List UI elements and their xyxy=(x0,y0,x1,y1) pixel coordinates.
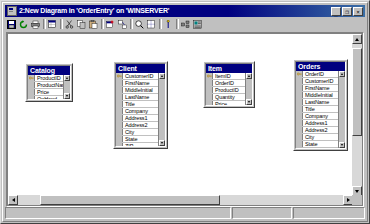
table-row[interactable]: Address2 xyxy=(296,127,338,134)
diagram-table-client[interactable]: ClientCustomerIDFirstNameMiddleInitialLa… xyxy=(113,61,168,149)
row-gutter[interactable] xyxy=(116,115,123,121)
table-row[interactable]: State xyxy=(296,141,338,148)
table-row[interactable]: City xyxy=(116,129,158,136)
scroll-left-button[interactable] xyxy=(8,195,18,205)
table-title[interactable]: Catalog xyxy=(28,66,70,75)
table-row[interactable]: Address1 xyxy=(296,120,338,127)
table-row[interactable]: ZIP xyxy=(116,143,158,146)
scroll-up-button[interactable] xyxy=(352,34,362,44)
table-row[interactable]: LastName xyxy=(116,94,158,101)
table-row[interactable]: Company xyxy=(296,113,338,120)
table-scroll-up-button[interactable] xyxy=(64,75,70,81)
diagram-table-item[interactable]: ItemItemIDOrderIDProductIDQuantityPrice xyxy=(203,61,255,108)
diagram-table-orders[interactable]: OrdersOrderIDCustomerIDFirstNameMiddleIn… xyxy=(293,59,348,151)
row-gutter[interactable] xyxy=(116,101,123,107)
row-gutter[interactable] xyxy=(206,101,213,105)
table-title[interactable]: Item xyxy=(206,64,252,73)
row-gutter[interactable] xyxy=(296,141,303,147)
row-gutter[interactable] xyxy=(296,134,303,140)
diagram-table-catalog[interactable]: CatalogProductIDProductNamePriceOnHand xyxy=(25,63,73,102)
row-gutter[interactable] xyxy=(116,87,123,93)
restore-button[interactable]: ❐ xyxy=(342,7,352,16)
table-vertical-scrollbar[interactable] xyxy=(338,71,345,148)
row-gutter[interactable] xyxy=(116,108,123,114)
table-scroll-down-button[interactable] xyxy=(64,93,70,99)
row-gutter[interactable] xyxy=(206,80,213,86)
refresh-button[interactable] xyxy=(18,19,29,30)
table-title[interactable]: Client xyxy=(116,64,165,73)
row-gutter[interactable] xyxy=(206,73,213,79)
table-row[interactable]: CustomerID xyxy=(116,73,158,80)
table-scroll-up-button[interactable] xyxy=(159,73,165,79)
table-row[interactable]: FirstName xyxy=(296,85,338,92)
relationship-button[interactable] xyxy=(163,19,174,30)
table-row[interactable]: OnHand xyxy=(28,96,63,99)
row-gutter[interactable] xyxy=(296,71,303,77)
row-gutter[interactable] xyxy=(296,127,303,133)
paste-button[interactable] xyxy=(88,19,99,30)
diagram-canvas[interactable]: CatalogProductIDProductNamePriceOnHandCl… xyxy=(8,34,353,196)
table-row[interactable]: ProductID xyxy=(206,87,245,94)
row-gutter[interactable] xyxy=(296,120,303,126)
row-gutter[interactable] xyxy=(296,99,303,105)
row-gutter[interactable] xyxy=(296,78,303,84)
table-scroll-down-button[interactable] xyxy=(339,142,345,148)
table-row[interactable]: ProductID xyxy=(28,75,63,82)
new-table-button[interactable] xyxy=(47,19,58,30)
row-gutter[interactable] xyxy=(116,143,123,146)
arrange-tables-button[interactable] xyxy=(180,19,191,30)
table-row[interactable]: ItemID xyxy=(206,73,245,80)
row-gutter[interactable] xyxy=(28,96,35,99)
zoom-button[interactable] xyxy=(134,19,145,30)
diagram-vertical-scrollbar[interactable] xyxy=(352,34,362,196)
table-title[interactable]: Orders xyxy=(296,62,345,71)
table-row[interactable]: Title xyxy=(296,106,338,113)
cut-button[interactable] xyxy=(64,19,75,30)
row-gutter[interactable] xyxy=(206,94,213,100)
row-gutter[interactable] xyxy=(116,129,123,135)
table-row[interactable]: MiddleInitial xyxy=(296,92,338,99)
table-row[interactable]: LastName xyxy=(296,99,338,106)
table-row[interactable]: Address2 xyxy=(116,122,158,129)
diagram-horizontal-scrollbar[interactable] xyxy=(8,195,353,205)
row-gutter[interactable] xyxy=(296,85,303,91)
table-scroll-down-button[interactable] xyxy=(246,99,252,105)
table-scroll-up-button[interactable] xyxy=(339,71,345,77)
page-break-button[interactable] xyxy=(146,19,157,30)
table-row[interactable]: State xyxy=(116,136,158,143)
row-gutter[interactable] xyxy=(28,82,35,88)
table-vertical-scrollbar[interactable] xyxy=(158,73,165,146)
table-row[interactable]: FirstName xyxy=(116,80,158,87)
add-related-tables-button[interactable] xyxy=(117,19,128,30)
table-row[interactable]: Price xyxy=(28,89,63,96)
row-gutter[interactable] xyxy=(116,136,123,142)
table-row[interactable]: MiddleInitial xyxy=(116,87,158,94)
table-row[interactable]: City xyxy=(296,134,338,141)
row-gutter[interactable] xyxy=(28,75,35,81)
minimize-button[interactable]: _ xyxy=(331,7,341,16)
table-row[interactable]: Company xyxy=(116,108,158,115)
print-button[interactable] xyxy=(30,19,41,30)
table-scroll-down-button[interactable] xyxy=(159,140,165,146)
properties-button[interactable] xyxy=(192,19,203,30)
table-row[interactable]: OrderID xyxy=(206,80,245,87)
title-bar[interactable]: 2:New Diagram in 'OrderEntry' on 'WINSER… xyxy=(5,5,365,17)
table-row[interactable]: Address1 xyxy=(116,115,158,122)
close-button[interactable]: × xyxy=(353,7,363,16)
table-row[interactable]: OrderID xyxy=(296,71,338,78)
row-gutter[interactable] xyxy=(296,92,303,98)
row-gutter[interactable] xyxy=(206,87,213,93)
row-gutter[interactable] xyxy=(296,113,303,119)
table-row[interactable]: Title xyxy=(116,101,158,108)
save-button[interactable] xyxy=(6,19,17,30)
copy-button[interactable] xyxy=(76,19,87,30)
row-gutter[interactable] xyxy=(296,106,303,112)
row-gutter[interactable] xyxy=(28,89,35,95)
table-row[interactable]: CustomerID xyxy=(296,78,338,85)
row-gutter[interactable] xyxy=(116,122,123,128)
table-row[interactable]: Quantity xyxy=(206,94,245,101)
table-scroll-up-button[interactable] xyxy=(246,73,252,79)
table-row[interactable]: Price xyxy=(206,101,245,105)
table-vertical-scrollbar[interactable] xyxy=(63,75,70,99)
add-table-button[interactable] xyxy=(105,19,116,30)
